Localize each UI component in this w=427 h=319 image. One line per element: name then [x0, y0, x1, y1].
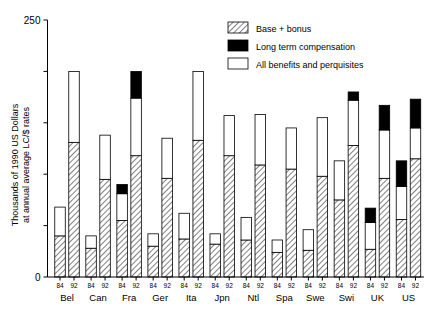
bar-segment-base-bonus-ita-92: [193, 140, 204, 277]
x-tick-label-spa-84: 84: [274, 282, 282, 289]
x-group-label-ger: Ger: [152, 292, 168, 303]
x-tick-label-us-92: 92: [412, 282, 420, 289]
x-tick-label-bel-84: 84: [56, 282, 64, 289]
x-tick-label-swe-92: 92: [319, 282, 327, 289]
bar-segment-base-bonus-bel-84: [55, 236, 65, 277]
bar-segment-base-bonus-swi-92: [348, 145, 359, 277]
bar-segment-benefits-swi-84: [334, 161, 345, 200]
bar-segment-benefits-ita-84: [179, 213, 190, 239]
bar-segment-benefits-jpn-84: [210, 234, 221, 244]
bar-segment-benefits-ger-92: [162, 138, 173, 178]
bar-segment-base-bonus-uk-84: [365, 249, 376, 277]
x-group-label-swi: Swi: [339, 292, 354, 303]
bar-segment-base-bonus-ger-92: [162, 178, 173, 277]
bar-segment-benefits-swe-84: [303, 230, 314, 251]
x-tick-label-uk-92: 92: [381, 282, 389, 289]
bar-segment-benefits-uk-92: [379, 130, 390, 178]
bar-segment-base-bonus-spa-92: [286, 169, 297, 277]
bar-segment-benefits-spa-84: [272, 240, 283, 252]
y-axis-title-line-1: Thousands of 1990 US Dollars: [10, 103, 20, 226]
bar-chart: 0250 Thousands of 1990 US Dollarsat annu…: [0, 0, 427, 319]
legend-swatch-0: [228, 22, 248, 33]
x-tick-label-ger-84: 84: [150, 282, 158, 289]
chart-container: 0250 Thousands of 1990 US Dollarsat annu…: [0, 0, 427, 319]
bar-segment-base-bonus-ntl-92: [255, 165, 265, 277]
bar-segment-long-term-comp-fra-84: [117, 184, 128, 193]
x-group-label-can: Can: [89, 292, 106, 303]
x-group-label-ntl: Ntl: [247, 292, 259, 303]
bar-segment-benefits-ntl-84: [241, 217, 252, 240]
x-tick-label-jpn-84: 84: [212, 282, 220, 289]
bar-segment-base-bonus-uk-92: [379, 178, 390, 277]
bar-segment-benefits-ger-84: [148, 234, 159, 246]
bar-segment-benefits-fra-92: [131, 98, 142, 156]
bar-segment-long-term-comp-fra-92: [131, 71, 142, 98]
bar-segment-base-bonus-swe-84: [303, 250, 314, 277]
x-tick-label-ntl-84: 84: [243, 282, 251, 289]
bar-segment-long-term-comp-swi-92: [348, 92, 359, 100]
legend-label-0: Base + bonus: [256, 24, 312, 34]
bar-segment-base-bonus-ger-84: [148, 246, 159, 277]
legend-swatch-2: [228, 58, 248, 69]
x-tick-label-ntl-92: 92: [257, 282, 265, 289]
x-tick-label-swi-92: 92: [350, 282, 358, 289]
bar-segment-benefits-ntl-92: [255, 115, 265, 165]
bar-segment-benefits-us-84: [396, 187, 407, 220]
y-axis-title-line-2: at annual average LC/$ rates: [21, 106, 31, 223]
bar-segment-benefits-uk-84: [365, 223, 376, 250]
x-tick-label-swe-84: 84: [305, 282, 313, 289]
x-tick-label-can-84: 84: [87, 282, 95, 289]
x-group-label-ita: Ita: [186, 292, 197, 303]
x-tick-label-can-92: 92: [101, 282, 109, 289]
bar-segment-long-term-comp-us-92: [410, 99, 421, 128]
bar-segment-benefits-swi-92: [348, 100, 359, 145]
bar-segment-base-bonus-fra-84: [117, 220, 128, 277]
x-tick-label-ita-84: 84: [181, 282, 189, 289]
bar-segment-base-bonus-us-92: [410, 159, 421, 277]
bar-segment-base-bonus-swi-84: [334, 200, 345, 277]
bar-segment-base-bonus-bel-92: [69, 142, 80, 277]
bar-segment-base-bonus-ita-84: [179, 239, 190, 277]
bar-segment-base-bonus-ntl-84: [241, 240, 252, 277]
bar-segment-long-term-comp-uk-92: [379, 105, 390, 130]
bar-segment-benefits-bel-84: [55, 207, 65, 236]
bar-segment-benefits-can-84: [86, 236, 97, 248]
bar-segment-base-bonus-fra-92: [131, 156, 142, 277]
x-tick-label-ita-92: 92: [195, 282, 203, 289]
bar-segment-base-bonus-swe-92: [317, 176, 328, 277]
x-axis: 8492Bel8492Can8492Fra8492Ger8492Ita8492J…: [48, 277, 425, 303]
bar-segment-benefits-spa-92: [286, 128, 297, 169]
x-group-label-swe: Swe: [306, 292, 324, 303]
bar-segment-benefits-fra-84: [117, 194, 128, 221]
bar-segment-benefits-bel-92: [69, 71, 80, 142]
bar-segment-base-bonus-jpn-92: [224, 156, 235, 277]
bars-area: [55, 71, 421, 277]
x-tick-label-bel-92: 92: [70, 282, 78, 289]
bar-segment-benefits-jpn-92: [224, 116, 235, 156]
bar-segment-base-bonus-can-92: [100, 179, 111, 277]
x-group-label-jpn: Jpn: [215, 292, 230, 303]
x-tick-label-spa-92: 92: [288, 282, 296, 289]
bar-segment-long-term-comp-uk-84: [365, 208, 376, 222]
legend-label-2: All benefits and perquisites: [256, 60, 364, 70]
y-axis-label: Thousands of 1990 US Dollarsat annual av…: [10, 103, 31, 226]
bar-segment-benefits-us-92: [410, 128, 421, 159]
x-group-label-fra: Fra: [122, 292, 137, 303]
x-tick-label-fra-92: 92: [132, 282, 140, 289]
x-tick-label-uk-84: 84: [367, 282, 375, 289]
x-group-label-spa: Spa: [276, 292, 294, 303]
x-tick-label-fra-84: 84: [118, 282, 126, 289]
x-tick-label-swi-84: 84: [336, 282, 344, 289]
bar-segment-benefits-can-92: [100, 135, 111, 179]
x-tick-label-us-84: 84: [398, 282, 406, 289]
bar-segment-base-bonus-jpn-84: [210, 244, 221, 277]
x-group-label-us: US: [402, 292, 415, 303]
legend-swatch-1: [228, 40, 248, 51]
x-group-label-bel: Bel: [60, 292, 74, 303]
x-tick-label-ger-92: 92: [164, 282, 172, 289]
bar-segment-base-bonus-us-84: [396, 219, 407, 277]
chart-legend: Base + bonusLong term compensationAll be…: [228, 22, 364, 70]
bar-segment-base-bonus-spa-84: [272, 252, 283, 277]
x-tick-label-jpn-92: 92: [226, 282, 234, 289]
bar-segment-long-term-comp-us-84: [396, 161, 407, 187]
